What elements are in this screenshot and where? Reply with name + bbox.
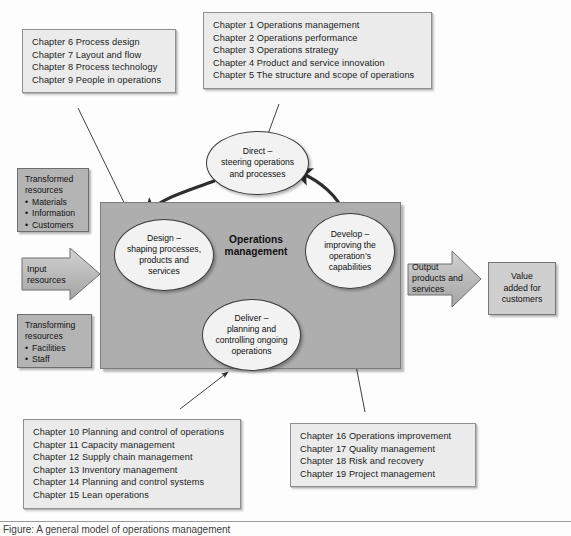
design-line3: products and [139, 255, 189, 265]
chapter-line: Chapter 17 Quality management [300, 443, 467, 456]
deliver-line3: controlling ongoing [215, 335, 287, 345]
operations-management-text: Operations management [225, 234, 288, 258]
output-label-line3: services [412, 284, 444, 295]
footer-divider [0, 521, 571, 522]
develop-line4: capabilities [329, 262, 372, 272]
centre-line1: Operations [229, 234, 283, 245]
value-line3: customers [502, 294, 543, 304]
transformed-heading-cont: resources [25, 185, 82, 196]
chapter-box-deliver[interactable]: Chapter 10 Planning and control of opera… [23, 419, 241, 509]
value-added-text: Value added for customers [502, 271, 543, 305]
transforming-heading-cont: resources [25, 331, 85, 342]
chapter-line: Chapter 5 The structure and scope of ope… [213, 69, 423, 82]
chapter-line: Chapter 8 Process technology [32, 61, 167, 74]
value-line1: Value [511, 271, 533, 281]
input-label-line2: resources [27, 275, 66, 286]
develop-line3: operation’s [329, 251, 371, 261]
node-develop[interactable]: Develop – improving the operation’s capa… [305, 213, 395, 289]
chapter-box-develop[interactable]: Chapter 16 Operations improvement Chapte… [290, 423, 476, 487]
deliver-line4: operations [231, 346, 271, 356]
output-arrow: Output products and services [412, 262, 482, 300]
figure-caption: Figure: A general model of operations ma… [3, 524, 423, 536]
centre-line2: management [225, 246, 288, 257]
transformed-item: Materials [25, 197, 82, 208]
chapter-line: Chapter 7 Layout and flow [32, 49, 167, 62]
direct-line2: steering operations [221, 157, 294, 167]
output-label-line1: Output [412, 262, 438, 273]
output-label-line2: products and [412, 273, 463, 284]
transformed-heading: Transformed [25, 174, 82, 185]
chapter-line: Chapter 9 People in operations [32, 74, 167, 87]
develop-line1: Develop – [331, 229, 370, 239]
design-line4: services [148, 266, 180, 276]
input-resources-arrow: Input resources [27, 264, 87, 290]
chapter-line: Chapter 14 Planning and control systems [33, 476, 232, 489]
chapter-line: Chapter 6 Process design [32, 36, 167, 49]
chapter-line: Chapter 16 Operations improvement [300, 430, 467, 443]
transforming-heading: Transforming [25, 320, 85, 331]
operations-management-label: Operations management [213, 222, 299, 274]
design-line2: shaping processes, [127, 244, 201, 254]
chapter-line: Chapter 10 Planning and control of opera… [33, 426, 232, 439]
value-added-box[interactable]: Value added for customers [488, 262, 556, 315]
transformed-item: Customers [25, 220, 82, 231]
transformed-resources-box[interactable]: Transformed resources Materials Informat… [17, 168, 89, 232]
design-line1: Design – [147, 233, 181, 243]
deliver-line2: planning and [227, 324, 276, 334]
node-deliver-text: Deliver – planning and controlling ongoi… [212, 313, 290, 358]
chapter-line: Chapter 15 Lean operations [33, 489, 232, 502]
transforming-resources-box[interactable]: Transforming resources Facilities Staff [17, 314, 92, 368]
node-deliver[interactable]: Deliver – planning and controlling ongoi… [202, 299, 301, 371]
figure-canvas: Chapter 6 Process design Chapter 7 Layou… [0, 0, 571, 536]
chapter-line: Chapter 3 Operations strategy [213, 44, 423, 57]
chapter-box-design[interactable]: Chapter 6 Process design Chapter 7 Layou… [22, 29, 176, 93]
deliver-line1: Deliver – [235, 313, 269, 323]
chapter-line: Chapter 2 Operations performance [213, 32, 423, 45]
input-label-line1: Input [27, 264, 47, 275]
chapter-line: Chapter 19 Project management [300, 468, 467, 481]
develop-line2: improving the [324, 240, 376, 250]
chapter-line: Chapter 13 Inventory management [33, 464, 232, 477]
chapter-line: Chapter 1 Operations management [213, 19, 423, 32]
transforming-item: Staff [25, 354, 85, 365]
node-design-text: Design – shaping processes, products and… [124, 233, 204, 278]
node-direct-text: Direct – steering operations and process… [218, 146, 297, 180]
chapter-box-direct[interactable]: Chapter 1 Operations management Chapter … [203, 12, 432, 89]
chapter-line: Chapter 12 Supply chain management [33, 451, 232, 464]
node-direct[interactable]: Direct – steering operations and process… [206, 131, 309, 195]
direct-line1: Direct – [243, 146, 273, 156]
node-develop-text: Develop – improving the operation’s capa… [321, 229, 379, 274]
transformed-item: Information [25, 208, 82, 219]
chapter-line: Chapter 18 Risk and recovery [300, 455, 467, 468]
chapter-line: Chapter 4 Product and service innovation [213, 57, 423, 70]
transforming-item: Facilities [25, 343, 85, 354]
direct-line3: and processes [230, 169, 286, 179]
node-design[interactable]: Design – shaping processes, products and… [114, 219, 214, 291]
chapter-line: Chapter 11 Capacity management [33, 439, 232, 452]
value-line2: added for [503, 283, 540, 293]
